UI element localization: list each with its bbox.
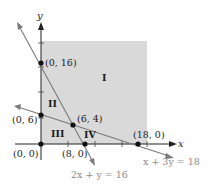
point-8-0	[82, 141, 87, 146]
region-label-1: I	[102, 72, 107, 83]
point-label-0-16: (0, 16)	[45, 57, 77, 68]
line-arrow-icon	[14, 104, 21, 110]
x-axis-arrow-icon	[169, 141, 177, 147]
point-label-18-0: (18, 0)	[133, 129, 165, 140]
point-18-0	[135, 141, 140, 146]
feasible-region-diagram: x y 2x + y = 16 x + 3y = 18	[0, 0, 211, 184]
line-arrow-icon	[17, 22, 23, 30]
point-label-6-4: (6, 4)	[77, 113, 103, 124]
point-0-16	[38, 60, 43, 65]
line-arrow-icon	[89, 158, 95, 166]
region-label-2: II	[48, 98, 57, 109]
line-label-2x-plus-y: 2x + y = 16	[71, 169, 128, 180]
point-0-6	[38, 112, 43, 117]
point-label-0-6: (0, 6)	[12, 114, 38, 125]
point-label-0-0: (0, 0)	[13, 148, 39, 159]
region-label-4: IV	[84, 129, 96, 140]
point-6-4	[70, 122, 75, 127]
x-axis-label: x	[178, 138, 184, 149]
point-0-0	[38, 141, 43, 146]
y-axis-label: y	[36, 10, 43, 21]
point-label-8-0: (8, 0)	[62, 148, 88, 159]
region-label-3: III	[51, 128, 65, 139]
y-axis-arrow-icon	[38, 22, 44, 30]
line-label-x-plus-3y: x + 3y = 18	[143, 156, 200, 167]
